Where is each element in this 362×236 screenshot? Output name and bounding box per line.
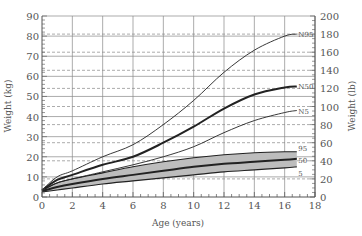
y-tick-label-right: 200: [320, 11, 339, 22]
curve-label-50: 50: [298, 157, 307, 165]
y-tick-label-right: 0: [320, 192, 326, 203]
y-tick-label-right: 120: [320, 83, 339, 94]
y-tick-label-right: 180: [320, 29, 339, 40]
y-tick-label-left: 0: [33, 192, 39, 203]
y-tick-label-left: 90: [26, 11, 39, 22]
y-tick-label-right: 100: [320, 102, 339, 113]
y-axis-label-right: Weight (lb): [347, 81, 357, 131]
y-tick-label-left: 50: [26, 91, 39, 102]
chart-svg: 0246810121416180102030405060708090020406…: [0, 0, 362, 236]
curve-label-95: 95: [298, 145, 307, 153]
y-tick-label-left: 60: [26, 71, 39, 82]
y-axis-label-left: Weight (kg): [3, 80, 13, 133]
x-tick-label: 12: [218, 200, 231, 211]
x-tick-label: 16: [278, 200, 291, 211]
y-tick-label-left: 10: [26, 172, 39, 183]
curve-label-n50: N50: [298, 83, 313, 91]
y-tick-label-right: 60: [320, 138, 333, 149]
y-tick-label-left: 30: [26, 132, 39, 143]
y-tick-label-right: 40: [320, 156, 333, 167]
x-tick-label: 8: [160, 200, 166, 211]
y-tick-label-left: 70: [26, 51, 39, 62]
y-tick-label-right: 20: [320, 174, 333, 185]
curve-label-5: 5: [298, 170, 302, 178]
x-tick-label: 14: [248, 200, 261, 211]
curve-labels: N95N50N595505: [298, 31, 313, 178]
y-tick-label-right: 160: [320, 47, 339, 58]
y-tick-label-right: 140: [320, 65, 339, 76]
x-tick-label: 6: [130, 200, 136, 211]
x-tick-label: 0: [39, 200, 45, 211]
x-tick-label: 10: [187, 200, 200, 211]
x-axis-label: Age (years): [151, 218, 204, 228]
curve-label-n5: N5: [298, 108, 309, 116]
growth-chart: 0246810121416180102030405060708090020406…: [0, 0, 362, 236]
y-tick-label-left: 20: [26, 152, 39, 163]
y-tick-label-left: 80: [26, 31, 39, 42]
y-tick-label-right: 80: [320, 120, 333, 131]
curve-label-n95: N95: [298, 31, 313, 39]
y-tick-label-left: 40: [26, 112, 39, 123]
x-tick-label: 4: [99, 200, 105, 211]
x-tick-label: 2: [69, 200, 75, 211]
